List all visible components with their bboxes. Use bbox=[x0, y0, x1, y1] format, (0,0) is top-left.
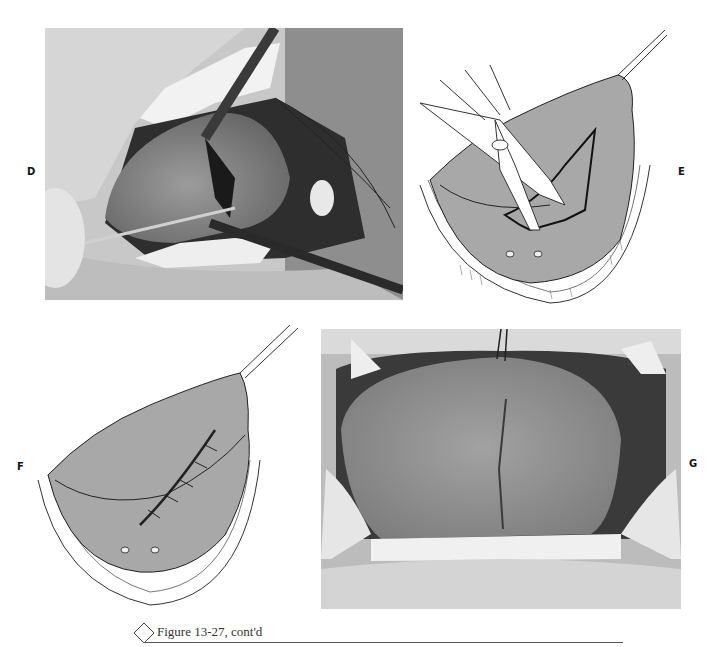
photo-g bbox=[321, 329, 681, 609]
panel-f: F bbox=[0, 310, 320, 610]
panel-label-g: G bbox=[689, 458, 697, 469]
caption-text: Figure 13-27, cont'd bbox=[157, 624, 262, 640]
panel-label-f: F bbox=[17, 461, 24, 472]
panel-e: E bbox=[400, 0, 721, 310]
photo-d bbox=[45, 28, 403, 300]
figure-caption: Figure 13-27, cont'd bbox=[133, 622, 593, 646]
panel-label-d: D bbox=[27, 166, 35, 177]
panel-label-e: E bbox=[678, 166, 685, 177]
panel-d: D bbox=[0, 0, 410, 305]
diamond-icon bbox=[133, 622, 155, 644]
caption-rule bbox=[143, 642, 623, 643]
panel-g: G bbox=[310, 320, 721, 610]
